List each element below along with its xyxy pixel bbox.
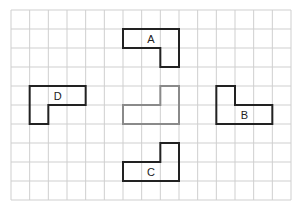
grid-diagram: ADBC (0, 0, 298, 207)
shape-label-d: D (54, 90, 62, 102)
shape-label-c: C (147, 166, 155, 178)
shapes: ADBC (30, 29, 273, 181)
shape-label-a: A (147, 33, 155, 45)
shape-label-b: B (241, 109, 248, 121)
